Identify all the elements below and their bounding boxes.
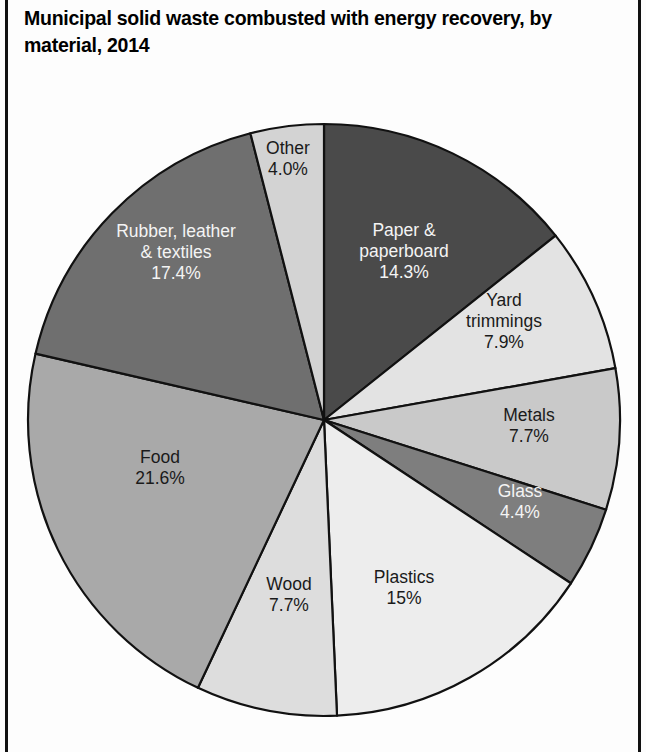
pie-slice-name: Glass [498,480,543,500]
pie-slice-label: Glass4.4% [498,480,543,521]
pie-slice-value: 7.9% [484,332,524,352]
pie-slice-label: Other4.0% [266,137,310,178]
pie-slice-value: 7.7% [509,425,549,445]
pie-slice-value: 14.3% [379,262,429,282]
pie-slice-label: Metals7.7% [503,404,555,445]
pie-slice-value: 4.0% [268,158,308,178]
pie-slice-name: Metals [503,404,555,424]
pie-chart: Paper &paperboard14.3%Yardtrimmings7.9%M… [0,0,646,752]
pie-slice-label: Food21.6% [135,446,185,487]
chart-page: Municipal solid waste combusted with ene… [0,0,646,752]
pie-slice-name: Yard [486,290,522,310]
pie-slice-name: trimmings [466,311,542,331]
pie-chart-svg: Paper &paperboard14.3%Yardtrimmings7.9%M… [0,0,646,752]
pie-slice-value: 7.7% [269,594,309,614]
pie-slice-name: & textiles [141,242,212,262]
pie-slice-name: Plastics [374,566,435,586]
pie-slice-label: Wood7.7% [266,573,311,614]
pie-slice-name: Other [266,137,310,157]
pie-slice-name: paperboard [359,241,449,261]
pie-slice-name: Rubber, leather [116,221,236,241]
pie-slice-name: Food [140,446,180,466]
pie-slice-value: 21.6% [135,467,185,487]
pie-slice-name: Paper & [372,220,436,240]
pie-slice-value: 15% [386,587,421,607]
pie-slice-value: 17.4% [151,263,201,283]
pie-slice-name: Wood [266,573,311,593]
pie-slice-value: 4.4% [500,501,540,521]
